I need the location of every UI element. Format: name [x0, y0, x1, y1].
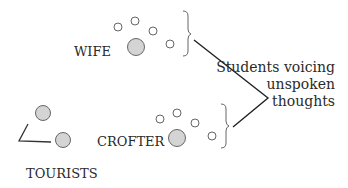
wife-student-4 [166, 40, 174, 48]
wife-student-1 [114, 23, 122, 31]
wife-brace [183, 11, 191, 56]
tourist-figure-2 [56, 133, 71, 148]
crofter-student-1 [156, 115, 164, 123]
crofter-student-3 [191, 119, 199, 127]
crofter-label: CROFTER [97, 134, 166, 149]
annotation-pointer [194, 40, 268, 127]
wife-student-3 [149, 27, 157, 35]
annotation-line-3: thoughts [272, 93, 335, 109]
tourists-group: TOURISTS [19, 106, 98, 182]
crofter-figure [169, 130, 186, 147]
crofter-brace [221, 104, 229, 148]
tourists-label: TOURISTS [26, 166, 98, 181]
wife-label: WIFE [74, 44, 111, 59]
crofter-student-4 [208, 132, 216, 140]
tourist-figure-1 [36, 106, 51, 121]
crofter-group: CROFTER [97, 104, 229, 149]
annotation-line-2: unspoken [267, 76, 335, 92]
annotation-line-1: Students voicing [216, 59, 335, 75]
tourists-connector [19, 124, 51, 142]
crofter-student-2 [173, 109, 181, 117]
diagram: WIFE CROFTER TOURISTS Students voicing u… [0, 0, 348, 188]
wife-figure [128, 39, 145, 56]
annotation: Students voicing unspoken thoughts [216, 59, 335, 109]
wife-student-2 [131, 17, 139, 25]
wife-group: WIFE [74, 11, 191, 59]
